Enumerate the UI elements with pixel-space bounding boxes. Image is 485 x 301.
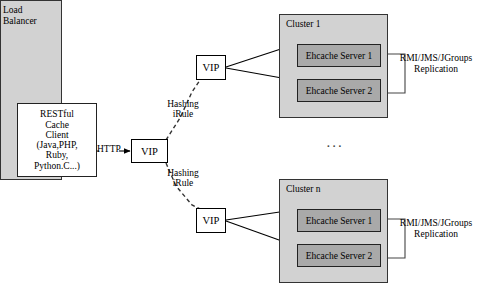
cluster-n-box: Cluster n Ehcache Server 1 Ehcache Serve… bbox=[279, 179, 388, 283]
vip-cluster-n-box: VIP bbox=[196, 208, 226, 233]
cluster-1-title: Cluster 1 bbox=[286, 19, 321, 29]
restful-cache-client-box: RESTful Cache Client (Java,PHP, Ruby, Py… bbox=[17, 103, 97, 177]
http-link-label: HTTP bbox=[97, 144, 121, 154]
vip-client-box: VIP bbox=[131, 139, 168, 163]
cluster-1-replication-label: RMI/JMS/JGroups Replication bbox=[388, 53, 484, 75]
cluster-1-ehcache-server-2: Ehcache Server 2 bbox=[297, 79, 381, 102]
hashing-irule-top-line-1: Hashing bbox=[167, 99, 199, 109]
cluster-ellipsis: ... bbox=[315, 134, 355, 151]
client-line-1: RESTful bbox=[40, 109, 74, 119]
cluster-1-box: Cluster 1 Ehcache Server 1 Ehcache Serve… bbox=[279, 14, 388, 118]
load-balancer-title: Load Balancer bbox=[3, 5, 59, 26]
load-balancer-title-line-2: Balancer bbox=[3, 16, 37, 26]
cluster-n-replication-line-1: RMI/JMS/JGroups bbox=[400, 218, 472, 228]
cluster-n-ehcache-server-1: Ehcache Server 1 bbox=[297, 209, 381, 232]
client-line-4: (Java,PHP, bbox=[36, 140, 77, 150]
cluster-1-replication-line-2: Replication bbox=[414, 64, 458, 74]
hashing-irule-bottom-line-1: Hashing bbox=[167, 168, 199, 178]
client-line-2: Cache bbox=[45, 120, 69, 130]
load-balancer-title-line-1: Load bbox=[3, 5, 23, 15]
vip-cluster-1-box: VIP bbox=[196, 55, 226, 80]
cluster-n-replication-line-2: Replication bbox=[414, 229, 458, 239]
cluster-n-ehcache-server-2: Ehcache Server 2 bbox=[297, 244, 381, 267]
client-line-6: Python.C...) bbox=[34, 161, 80, 171]
cluster-1-replication-line-1: RMI/JMS/JGroups bbox=[400, 53, 472, 63]
cluster-n-replication-label: RMI/JMS/JGroups Replication bbox=[388, 218, 484, 240]
hashing-irule-top-line-2: iRule bbox=[173, 109, 194, 119]
hashing-irule-label-top: Hashing iRule bbox=[153, 99, 213, 120]
architecture-diagram: RESTful Cache Client (Java,PHP, Ruby, Py… bbox=[0, 0, 485, 301]
hashing-irule-bottom-line-2: iRule bbox=[173, 178, 194, 188]
cluster-n-title: Cluster n bbox=[286, 184, 321, 194]
cluster-1-ehcache-server-1: Ehcache Server 1 bbox=[297, 44, 381, 67]
client-line-5: Ruby, bbox=[46, 150, 68, 160]
hashing-irule-label-bottom: Hashing iRule bbox=[153, 168, 213, 189]
client-line-3: Client bbox=[45, 130, 68, 140]
